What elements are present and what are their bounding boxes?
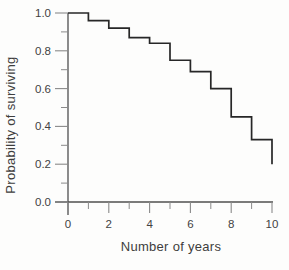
- x-axis-label: Number of years: [121, 239, 222, 254]
- survival-curve-figure: 0.00.20.40.60.81.00246810 Number of year…: [0, 0, 289, 270]
- y-tick-label: 1.0: [35, 7, 51, 19]
- y-tick-label: 0.8: [35, 45, 51, 57]
- x-tick-label: 8: [228, 218, 234, 230]
- survival-chart: 0.00.20.40.60.81.00246810 Number of year…: [0, 0, 289, 270]
- y-tick-label: 0.6: [35, 83, 51, 95]
- y-tick-label: 0.2: [35, 158, 51, 170]
- x-tick-label: 4: [146, 218, 153, 230]
- x-tick-label: 6: [187, 218, 193, 230]
- plot-area: 0.00.20.40.60.81.00246810: [35, 7, 278, 230]
- y-tick-label: 0.4: [35, 120, 52, 132]
- x-tick-label: 0: [65, 218, 71, 230]
- y-tick-label: 0.0: [35, 196, 51, 208]
- x-tick-label: 10: [266, 218, 279, 230]
- survival-step-curve: [68, 13, 272, 164]
- y-axis-label: Probability of surviving: [3, 56, 18, 193]
- x-tick-label: 2: [106, 218, 112, 230]
